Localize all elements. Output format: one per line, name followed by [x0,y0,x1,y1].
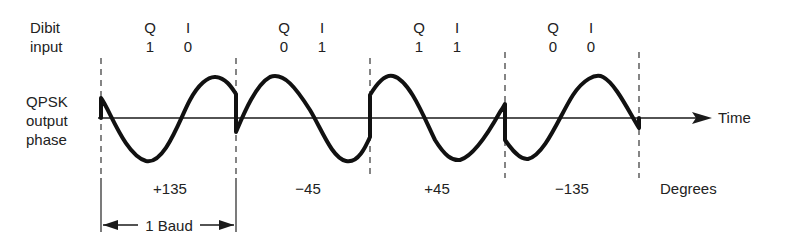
symbol-4-phase: −135 [555,180,589,197]
symbol-3-phase: +45 [424,180,449,197]
baud-label: 1 Baud [145,217,193,234]
symbol-1-phase: +135 [153,180,187,197]
degrees-unit-label: Degrees [660,180,717,197]
qpsk-waveform-diagram [0,0,791,249]
symbol-2-phase: −45 [295,180,320,197]
time-axis-label: Time [718,109,751,126]
